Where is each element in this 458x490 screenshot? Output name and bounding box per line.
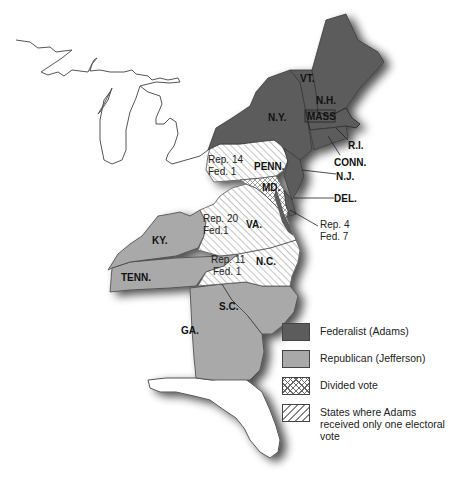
- legend-item-federalist: Federalist (Adams): [282, 323, 458, 341]
- penn-rep-votes: Rep. 14: [208, 154, 243, 165]
- legend-label: States where Adams received only one ele…: [320, 404, 458, 442]
- label-ky: KY.: [152, 235, 168, 246]
- penn-fed-votes: Fed. 1: [208, 166, 237, 177]
- label-nh: N.H.: [316, 95, 336, 106]
- divided-swatch: [282, 377, 310, 395]
- label-conn: CONN.: [334, 157, 366, 168]
- federalist-swatch: [282, 323, 310, 341]
- one-vote-swatch: [282, 404, 310, 422]
- legend-item-one-vote: States where Adams received only one ele…: [282, 404, 458, 442]
- label-ri: R.I.: [348, 140, 364, 151]
- legend-label: Divided vote: [320, 377, 378, 391]
- florida: [148, 378, 280, 458]
- va-rep-votes: Rep. 20: [203, 213, 238, 224]
- label-mass: MASS: [307, 111, 336, 122]
- nc-rep-votes: Rep. 11: [211, 254, 246, 265]
- label-nc: N.C.: [256, 256, 276, 267]
- va-fed-votes: Fed.1: [203, 225, 229, 236]
- label-nj: N.J.: [336, 171, 355, 182]
- legend-item-divided: Divided vote: [282, 377, 458, 395]
- md-fed-votes: Fed. 7: [320, 231, 349, 242]
- legend-label: Republican (Jefferson): [320, 350, 425, 364]
- label-ga: GA.: [181, 325, 199, 336]
- label-ny: N.Y.: [268, 112, 287, 123]
- md-rep-votes: Rep. 4: [320, 219, 350, 230]
- label-del: DEL.: [334, 193, 357, 204]
- great-lakes-outline: [16, 40, 208, 164]
- label-vt: VT.: [300, 73, 315, 84]
- label-va: VA.: [246, 219, 262, 230]
- nc-fed-votes: Fed. 1: [213, 266, 242, 277]
- legend-label: Federalist (Adams): [320, 323, 409, 337]
- label-md: MD.: [262, 182, 281, 193]
- map-legend: Federalist (Adams) Republican (Jefferson…: [282, 323, 458, 451]
- label-sc: S.C.: [219, 301, 239, 312]
- label-penn: PENN.: [254, 161, 285, 172]
- republican-swatch: [282, 350, 310, 368]
- legend-item-republican: Republican (Jefferson): [282, 350, 458, 368]
- label-tenn: TENN.: [121, 272, 151, 283]
